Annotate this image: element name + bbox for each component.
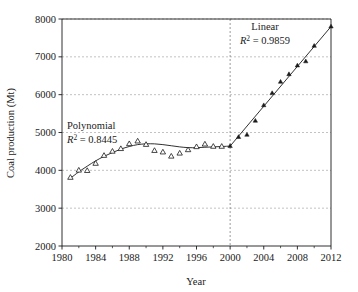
- y-tick-label-6000: 6000: [35, 89, 56, 100]
- y-tick-label-5000: 5000: [35, 127, 56, 138]
- chart-figure: 198019841988199219962000200420082012 200…: [0, 0, 358, 292]
- x-tick-label-2012: 2012: [321, 252, 342, 263]
- x-axis-title: Year: [186, 276, 206, 287]
- y-tick-label-7000: 7000: [35, 51, 56, 62]
- x-tick-label-1984: 1984: [85, 252, 107, 263]
- x-tick-label-1996: 1996: [186, 252, 207, 263]
- y-tick-label-3000: 3000: [35, 203, 56, 214]
- x-tick-label-1988: 1988: [119, 252, 140, 263]
- y-axis-title: Coal production (Mt): [5, 88, 17, 178]
- x-tick-label-1980: 1980: [52, 252, 73, 263]
- linear-annotation-label: Linear: [251, 21, 279, 32]
- lin-r2-value: = 0.9859: [250, 35, 290, 46]
- y-tick-label-2000: 2000: [35, 241, 56, 252]
- x-axis-tick-labels-group: 198019841988199219962000200420082012: [52, 252, 342, 263]
- polynomial-annotation-label: Polynomial: [67, 120, 116, 131]
- coal-production-chart: 198019841988199219962000200420082012 200…: [0, 0, 358, 292]
- x-tick-label-2008: 2008: [287, 252, 308, 263]
- x-tick-label-1992: 1992: [152, 252, 173, 263]
- poly-r2-value: = 0.8445: [77, 134, 117, 145]
- y-tick-label-4000: 4000: [35, 165, 56, 176]
- x-tick-label-2000: 2000: [220, 252, 241, 263]
- y-tick-label-8000: 8000: [35, 14, 56, 25]
- x-tick-label-2004: 2004: [253, 252, 275, 263]
